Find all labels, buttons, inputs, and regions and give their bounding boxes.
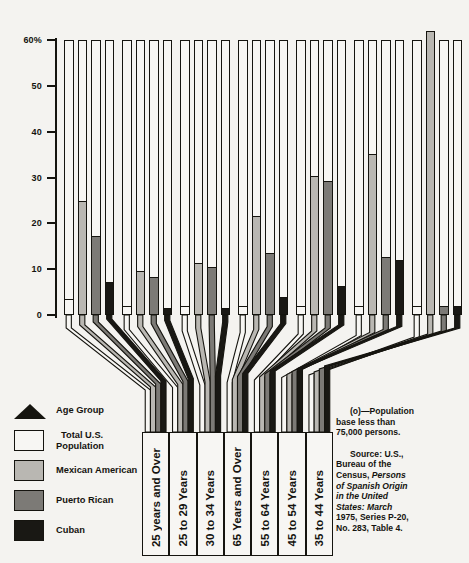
category-label-column: 65 Years and Over: [224, 432, 251, 556]
source-line-1: Source: U.S.,: [336, 449, 464, 460]
legend-item-mexican-american: Mexican American: [8, 458, 158, 484]
ribbon-cuban: [215, 315, 227, 432]
category-label-holder: 45 to 54 Years: [279, 470, 304, 547]
ribbon-cuban: [270, 315, 344, 432]
legend-header-row: Age Group: [8, 398, 158, 424]
legend-header-label: Age Group: [56, 405, 104, 416]
legend-item-cuban: Cuban: [8, 518, 158, 544]
legend-label-mexican-american: Mexican American: [56, 465, 137, 476]
footnote-line-2: base less than: [336, 417, 464, 428]
source-line-6: States: March: [336, 502, 464, 513]
footnote-line-3: 75,000 persons.: [336, 427, 464, 438]
category-label: 45 to 54 Years: [286, 470, 298, 547]
source-note: Source: U.S., Bureau of the Census, Pers…: [336, 449, 464, 534]
category-label: 30 to 34 Years: [204, 470, 216, 547]
category-label-holder: 65 Years and Over: [225, 447, 250, 547]
category-label: 35 to 44 Years: [313, 470, 325, 547]
legend-label-total-us-population-line2: Population: [56, 441, 104, 452]
category-label-column: 35 to 44 Years: [306, 432, 333, 556]
chart-canvas: 60%50403020100 25 years and Over25 to 29…: [0, 0, 469, 563]
legend-label-cuban: Cuban: [56, 525, 85, 536]
source-line-7: 1975, Series P-20,: [336, 512, 464, 523]
legend-swatch-cuban: [14, 520, 44, 541]
category-label: 25 to 29 Years: [177, 470, 189, 547]
legend-label-total-us-population-line1: Total U.S.: [56, 430, 104, 441]
source-line-8: No. 283, Table 4.: [336, 523, 464, 534]
source-line-2: Bureau of the: [336, 459, 464, 470]
source-line-3-italic: Persons: [372, 470, 406, 480]
category-label-holder: 25 to 29 Years: [170, 470, 195, 547]
source-line-5: in the United: [336, 491, 464, 502]
category-label-holder: 35 to 44 Years: [307, 470, 332, 547]
legend-label-puerto-rican: Puerto Rican: [56, 495, 113, 506]
footnote: (o)—Population base less than 75,000 per…: [336, 406, 464, 438]
category-label-holder: 30 to 34 Years: [198, 470, 223, 547]
source-line-3-plain: Census,: [336, 470, 372, 480]
source-line-3: Census, Persons: [336, 470, 464, 481]
legend-swatch-mexican-american: [14, 460, 44, 481]
triangle-icon: [14, 404, 46, 419]
legend-item-total-us-population: Total U.S. Population: [8, 428, 158, 454]
legend: Age Group Total U.S. Population Mexican …: [8, 398, 158, 548]
legend-swatch-puerto-rican: [14, 490, 44, 511]
category-label-column: 55 to 64 Years: [251, 432, 278, 556]
source-line-4: of Spanish Origin: [336, 481, 464, 492]
category-label-column: 45 to 54 Years: [278, 432, 305, 556]
category-label-column: 25 to 29 Years: [169, 432, 196, 556]
category-label-holder: 55 to 64 Years: [252, 470, 277, 547]
ribbon-puerto-rican: [209, 315, 215, 432]
category-label: 55 to 64 Years: [259, 470, 271, 547]
notes-block: (o)—Population base less than 75,000 per…: [336, 406, 464, 534]
legend-swatch-total-us-population: [14, 430, 44, 451]
legend-item-puerto-rican: Puerto Rican: [8, 488, 158, 514]
footnote-line-1: (o)—Population: [336, 406, 464, 417]
category-label-column: 30 to 34 Years: [197, 432, 224, 556]
category-label: 65 Years and Over: [231, 447, 243, 547]
